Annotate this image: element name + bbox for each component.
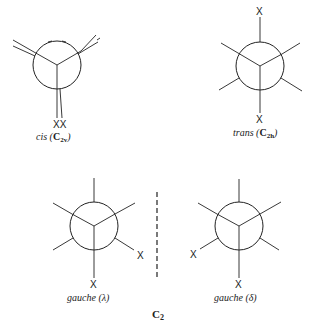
gauche-lambda-back-bond-lower-right-x [115,238,134,250]
cis-front-bond-upper-right [57,51,81,65]
trans-front-bond-upper-left [238,53,260,66]
cis-caption: cis (C2v) [36,131,71,144]
gauche-delta-front-bond-upper-left [217,214,239,226]
newman-projection-figure: XX cis (C2v) X X trans (C2h) X X gauche … [0,0,314,327]
trans-front-bond-upper-left-ext [221,43,238,53]
gauche-lambda-front-bond-upper-right [94,214,115,226]
trans-x-bottom: X [256,114,263,125]
gauche-delta-front-bond-upper-right-ext [260,202,281,214]
gauche-lambda-front-bond-upper-right-ext [115,203,135,214]
trans-caption: trans (C2h) [233,127,278,140]
cis-back-bond-down [60,89,62,118]
gauche-lambda-back-bond-lower-left [53,238,73,250]
gauche-point-group-label: C2 [152,308,164,322]
cis-front-bond-upper-right-ext [81,35,96,51]
trans-back-bond-lower-right [281,78,302,91]
trans-back-bond-lower-left [219,78,239,90]
gauche-lambda-front-bond-upper-left-ext [53,203,72,214]
cis-front-bond-upper-left [34,52,57,65]
cis-back-bond-upper-right-tick [97,38,100,40]
cis-front-bond-upper-left-ext [13,40,34,52]
cis-conformer: XX cis (C2v) [13,35,100,144]
trans-conformer: X X trans (C2h) [219,6,302,140]
gauche-lambda-x-bottom: X [90,279,97,290]
gauche-delta-back-bond-lower-left-x [200,238,218,249]
gauche-lambda-x-right: X [137,250,144,261]
gauche-lambda-conformer: X X gauche (λ) [53,178,144,304]
gauche-delta-conformer: X X gauche (δ) [190,179,281,304]
gauche-delta-front-bond-upper-right [239,214,260,226]
cis-x-labels: XX [53,119,67,130]
gauche-delta-front-bond-upper-left-ext [198,203,217,214]
gauche-delta-back-bond-lower-right [260,238,279,250]
trans-front-bond-upper-right-ext [282,43,300,54]
gauche-lambda-caption: gauche (λ) [67,292,110,304]
gauche-delta-caption: gauche (δ) [214,292,257,304]
trans-x-top: X [256,6,263,17]
gauche-delta-x-bottom: X [235,279,242,290]
trans-front-bond-upper-right [260,54,282,66]
gauche-delta-x-left: X [190,249,197,260]
gauche-lambda-front-bond-upper-left [72,214,94,226]
